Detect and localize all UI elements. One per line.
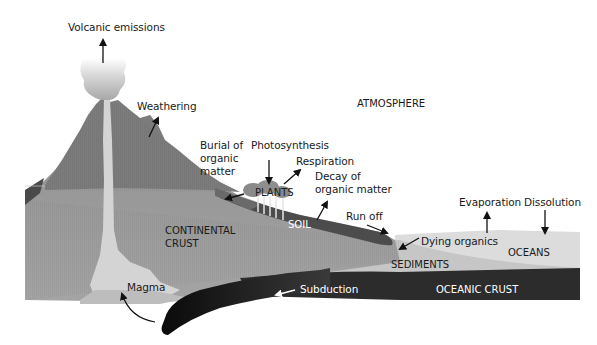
label-oceanic-crust: OCEANIC CRUST: [436, 283, 518, 296]
label-burial-line2: organic: [200, 152, 238, 165]
carbon-cycle-diagram: Volcanic emissions Weathering ATMOSPHERE…: [0, 0, 597, 345]
label-sediments: SEDIMENTS: [391, 258, 449, 271]
label-continental-crust-line1: CONTINENTAL: [165, 224, 235, 237]
label-weathering: Weathering: [137, 100, 196, 113]
label-oceans: OCEANS: [508, 246, 550, 259]
label-dissolution: Dissolution: [524, 196, 581, 209]
label-evaporation: Evaporation: [459, 196, 521, 209]
label-dying-organics: Dying organics: [421, 235, 498, 248]
volcanic-plume: [80, 58, 126, 100]
label-plants: PLANTS: [255, 186, 294, 199]
label-burial-line3: matter: [200, 165, 235, 178]
label-subduction: Subduction: [300, 283, 358, 296]
label-magma: Magma: [127, 281, 165, 294]
label-volcanic-emissions: Volcanic emissions: [68, 21, 165, 34]
label-decay-line2: organic matter: [315, 183, 392, 196]
label-respiration: Respiration: [296, 155, 354, 168]
decay-arrow: [317, 202, 327, 220]
label-burial-line1: Burial of: [200, 139, 243, 152]
label-photosynthesis: Photosynthesis: [251, 139, 329, 152]
label-decay-line1: Decay of: [315, 170, 361, 183]
label-run-off: Run off: [346, 210, 383, 223]
label-soil: SOIL: [288, 218, 311, 231]
label-atmosphere: ATMOSPHERE: [357, 97, 425, 110]
respiration-arrow: [284, 170, 300, 184]
label-continental-crust-line2: CRUST: [165, 237, 199, 250]
